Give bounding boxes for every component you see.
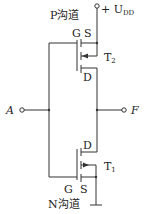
vdd-label: + UDD [101,3,135,17]
output-terminal [122,108,126,112]
t1-gate-label: G [64,183,73,196]
t1-name-label: T1 [104,160,116,174]
junction-dot [48,109,50,111]
input-terminal [20,108,24,112]
t1-channel-label: N沟道 [48,197,80,211]
junction-dot [96,42,98,44]
t2-drain-label: D [83,71,92,84]
t2-gate-label: G [72,27,81,40]
t1-source-label: S [80,183,88,196]
t2-source-label: S [84,27,92,40]
t1-arrow-icon [83,163,89,168]
cmos-inverter-diagram: P沟道 + UDD G S T2 D A F D T1 G S N沟道 [0,0,144,214]
t2-arrow-icon [82,54,88,59]
junction-dot [95,176,97,178]
input-label: A [5,104,14,117]
junction-dot [96,109,98,111]
t2-name-label: T2 [104,51,116,65]
t1-drain-label: D [83,139,92,152]
output-label: F [130,104,139,117]
t2-channel-label: P沟道 [50,8,79,22]
vdd-terminal [95,4,99,8]
